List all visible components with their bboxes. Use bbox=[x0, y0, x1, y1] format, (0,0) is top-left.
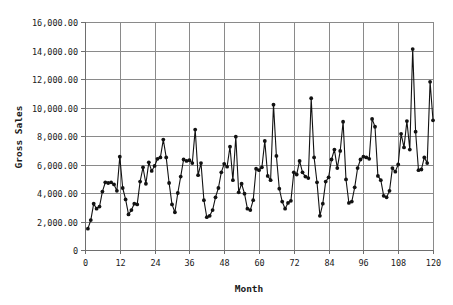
data-point-marker bbox=[428, 80, 432, 84]
data-point-marker bbox=[150, 169, 154, 173]
data-point-marker bbox=[86, 227, 90, 231]
data-point-marker bbox=[370, 117, 374, 121]
data-point-marker bbox=[321, 202, 325, 206]
data-point-marker bbox=[312, 155, 316, 159]
data-point-marker bbox=[330, 158, 334, 162]
x-tick-label: 36 bbox=[184, 258, 194, 268]
data-point-marker bbox=[373, 125, 377, 129]
x-tick-label: 12 bbox=[115, 258, 125, 268]
x-tick-label: 48 bbox=[219, 258, 229, 268]
data-point-marker bbox=[138, 180, 142, 184]
data-point-marker bbox=[222, 162, 226, 166]
gross-sales-chart: 02,000.004,000.006,000.008,000.0010,000.… bbox=[0, 0, 453, 305]
data-point-marker bbox=[260, 165, 264, 169]
x-tick-label: 24 bbox=[150, 258, 160, 268]
data-point-marker bbox=[324, 180, 328, 184]
data-point-marker bbox=[318, 214, 322, 218]
data-point-marker bbox=[217, 186, 221, 190]
data-point-marker bbox=[338, 149, 342, 153]
data-point-marker bbox=[431, 118, 435, 122]
data-point-marker bbox=[237, 190, 241, 194]
data-point-marker bbox=[214, 195, 218, 199]
data-point-marker bbox=[228, 145, 232, 149]
data-point-marker bbox=[176, 191, 180, 195]
gross-sales-line bbox=[88, 49, 433, 229]
data-point-marker bbox=[89, 218, 93, 222]
data-point-marker bbox=[225, 165, 229, 169]
data-point-marker bbox=[208, 214, 212, 218]
data-point-marker bbox=[393, 170, 397, 174]
data-point-marker bbox=[376, 174, 380, 178]
data-point-marker bbox=[277, 187, 281, 191]
data-markers-group bbox=[86, 47, 435, 230]
data-point-marker bbox=[219, 170, 223, 174]
data-point-marker bbox=[263, 139, 267, 143]
x-tick-label: 84 bbox=[324, 258, 334, 268]
y-tick-label: 12,000.00 bbox=[32, 75, 78, 85]
data-point-marker bbox=[144, 182, 148, 186]
data-point-marker bbox=[127, 212, 131, 216]
y-axis-title: Gross Sales bbox=[13, 106, 24, 169]
data-point-marker bbox=[190, 161, 194, 165]
data-point-marker bbox=[301, 170, 305, 174]
data-point-marker bbox=[344, 178, 348, 182]
x-axis-title: Month bbox=[235, 283, 264, 294]
x-tick-label: 120 bbox=[426, 258, 441, 268]
data-point-marker bbox=[164, 155, 168, 159]
data-point-marker bbox=[135, 203, 139, 207]
data-point-marker bbox=[379, 178, 383, 182]
data-point-marker bbox=[327, 175, 331, 179]
data-point-marker bbox=[425, 161, 429, 165]
y-tick-label: 2,000.00 bbox=[37, 218, 78, 228]
data-point-marker bbox=[251, 198, 255, 202]
data-point-marker bbox=[385, 195, 389, 199]
data-point-marker bbox=[353, 185, 357, 189]
data-point-marker bbox=[92, 202, 96, 206]
data-point-marker bbox=[422, 155, 426, 159]
data-point-marker bbox=[161, 138, 165, 142]
data-point-marker bbox=[391, 166, 395, 170]
data-point-marker bbox=[283, 207, 287, 211]
data-point-marker bbox=[240, 182, 244, 186]
data-point-marker bbox=[153, 164, 157, 168]
data-point-marker bbox=[396, 163, 400, 167]
x-tick-label: 96 bbox=[358, 258, 368, 268]
data-point-marker bbox=[289, 199, 293, 203]
data-point-marker bbox=[405, 119, 409, 123]
y-tick-label: 16,000.00 bbox=[32, 18, 78, 28]
data-point-marker bbox=[257, 168, 261, 172]
data-point-marker bbox=[298, 159, 302, 163]
x-tick-label: 72 bbox=[289, 258, 299, 268]
data-point-marker bbox=[170, 203, 174, 207]
data-point-marker bbox=[367, 157, 371, 161]
data-point-marker bbox=[269, 178, 273, 182]
data-point-marker bbox=[333, 148, 337, 152]
data-point-marker bbox=[188, 158, 192, 162]
data-point-marker bbox=[335, 166, 339, 170]
gridlines-group bbox=[85, 22, 434, 250]
data-point-marker bbox=[356, 166, 360, 170]
data-point-marker bbox=[315, 180, 319, 184]
y-axis-ticks-group: 02,000.004,000.006,000.008,000.0010,000.… bbox=[32, 18, 85, 256]
data-point-marker bbox=[402, 146, 406, 150]
data-point-marker bbox=[234, 135, 238, 139]
data-point-marker bbox=[359, 158, 363, 162]
data-point-marker bbox=[243, 192, 247, 196]
data-point-marker bbox=[231, 178, 235, 182]
data-point-marker bbox=[399, 132, 403, 136]
data-point-marker bbox=[280, 200, 284, 204]
x-axis-ticks-group: 01224364860728496108120 bbox=[83, 250, 441, 268]
data-point-marker bbox=[420, 168, 424, 172]
data-point-marker bbox=[211, 208, 215, 212]
data-point-marker bbox=[196, 173, 200, 177]
data-point-marker bbox=[408, 148, 412, 152]
data-point-marker bbox=[124, 198, 128, 202]
data-point-marker bbox=[118, 155, 122, 159]
data-point-marker bbox=[121, 186, 125, 190]
data-point-marker bbox=[115, 189, 119, 193]
data-point-marker bbox=[167, 181, 171, 185]
data-point-marker bbox=[275, 154, 279, 158]
data-point-marker bbox=[141, 165, 145, 169]
data-point-marker bbox=[272, 103, 276, 107]
data-point-marker bbox=[130, 208, 134, 212]
